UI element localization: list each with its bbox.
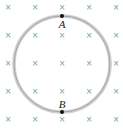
field-cross-icon: ×: [59, 59, 66, 68]
field-cross-icon: ×: [113, 115, 120, 124]
field-cross-icon: ×: [86, 59, 93, 68]
field-cross-icon: ×: [113, 31, 120, 40]
field-cross-icon: ×: [59, 87, 66, 96]
field-cross-icon: ×: [5, 87, 12, 96]
field-cross-icon: ×: [32, 59, 39, 68]
field-cross-icon: ×: [32, 31, 39, 40]
point-a-label: A: [58, 18, 66, 30]
field-cross-icon: ×: [59, 3, 66, 12]
field-cross-icon: ×: [59, 115, 66, 124]
field-cross-icon: ×: [5, 115, 12, 124]
field-cross-icon: ×: [32, 115, 39, 124]
field-cross-icon: ×: [59, 31, 66, 40]
field-cross-icon: ×: [5, 59, 12, 68]
field-cross-icon: ×: [86, 31, 93, 40]
magnetic-field-diagram: ××××××××××××××××××××××××× AB: [0, 0, 123, 134]
field-cross-icon: ×: [86, 3, 93, 12]
point-b-label: B: [59, 98, 66, 110]
field-cross-icon: ×: [113, 59, 120, 68]
field-cross-icon: ×: [5, 31, 12, 40]
field-cross-icon: ×: [32, 87, 39, 96]
field-cross-icon: ×: [113, 87, 120, 96]
field-cross-icon: ×: [5, 3, 12, 12]
field-cross-icon: ×: [32, 3, 39, 12]
field-cross-icon: ×: [113, 3, 120, 12]
field-cross-icon: ×: [86, 115, 93, 124]
field-cross-icon: ×: [86, 87, 93, 96]
point-b-dot: [60, 110, 64, 114]
